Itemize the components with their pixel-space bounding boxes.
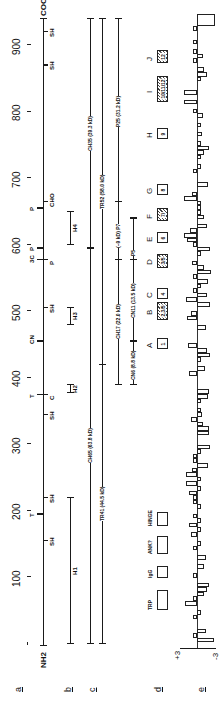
tick-label: 700 xyxy=(12,171,22,188)
hydropathy-bar xyxy=(193,169,197,174)
tick-label: 300 xyxy=(12,437,22,454)
fragment-label: P25 (31.2 kD) xyxy=(115,96,122,127)
site-tick xyxy=(43,307,48,308)
hydropathy-bar xyxy=(197,638,214,643)
domain-label: ANK? xyxy=(148,540,153,554)
repeat-letter: B xyxy=(146,310,154,315)
scale-top-label: +3 xyxy=(174,651,182,660)
fragment-cap xyxy=(130,384,137,385)
fragment-cap xyxy=(87,643,94,644)
tick-mark xyxy=(27,510,31,511)
site-label: SH xyxy=(49,494,55,503)
tick-label: 100 xyxy=(12,570,22,587)
site-tick xyxy=(43,31,48,32)
hydropathy-bar xyxy=(197,14,215,26)
hydropathy-bar xyxy=(197,629,206,634)
repeat-box: 2,3/5 xyxy=(157,302,168,320)
site-label: SH xyxy=(49,537,55,546)
hydropathy-bar xyxy=(193,573,197,578)
region-line xyxy=(70,497,71,643)
repeat-number: 6 xyxy=(160,235,166,240)
repeat-box: 9 xyxy=(157,128,168,139)
hydropathy-bar xyxy=(197,504,201,509)
repeat-box: 7/ xyxy=(157,208,168,221)
tick-mark xyxy=(27,443,31,444)
site-label: P xyxy=(29,207,35,211)
domain-box xyxy=(157,590,168,610)
hydropathy-bar xyxy=(197,610,201,615)
hydropathy-bar xyxy=(197,54,203,59)
tick-mark xyxy=(27,44,31,45)
tick-mark xyxy=(27,177,31,178)
sequence-axis-line xyxy=(43,18,44,645)
site-label: P xyxy=(29,247,35,251)
site-tick xyxy=(43,394,48,395)
repeat-number: 10/11/12 xyxy=(160,78,166,99)
fragment-label: CH17 (22.0 kD) xyxy=(115,304,122,339)
fragment-label: TR41 (44.5 kD) xyxy=(99,487,106,521)
scale-bottom-label: -3 xyxy=(212,653,220,660)
hydropathy-bar xyxy=(197,518,201,523)
site-tick xyxy=(37,513,43,514)
hydropathy-bar xyxy=(197,592,204,597)
repeat-box: 8 xyxy=(157,184,168,195)
hydropathy-bar xyxy=(197,164,201,169)
protein-domain-map-figure: a b c d e 100200300400500600700800900 NH… xyxy=(0,0,223,704)
hydropathy-bar xyxy=(197,463,208,468)
hydropathy-bar xyxy=(184,196,197,201)
repeat-number: 8 xyxy=(160,187,166,192)
tick-label: 500 xyxy=(12,304,22,321)
repeat-box: 1 xyxy=(157,338,168,349)
row-label-b: b xyxy=(64,687,73,692)
repeat-number: 3/5 xyxy=(160,257,166,266)
row-label-d: d xyxy=(154,687,163,692)
tick-mark xyxy=(27,111,31,112)
hydropathy-bar xyxy=(197,366,205,371)
fragment-cap xyxy=(115,259,122,260)
hydropathy-bar xyxy=(189,523,197,528)
row-label-e: e xyxy=(197,687,206,692)
site-label: C xyxy=(49,395,55,400)
fragment-cap xyxy=(130,340,137,341)
region-cap xyxy=(67,643,74,644)
hydropathy-bar xyxy=(197,486,201,491)
repeat-letter: J xyxy=(146,57,154,61)
site-label: SH xyxy=(49,411,55,420)
fragment-cap xyxy=(99,364,106,365)
repeat-letter: H xyxy=(146,132,154,138)
repeat-number: 4 xyxy=(160,291,166,296)
hydropathy-bar xyxy=(197,270,211,275)
hydropathy-bar xyxy=(188,343,197,348)
row-label-a: a xyxy=(14,687,23,692)
region-label: H2 xyxy=(72,385,78,393)
repeat-letter: I xyxy=(146,91,154,93)
hydropathy-bar xyxy=(197,132,202,137)
region-line xyxy=(70,384,71,392)
fragment-cap xyxy=(115,18,122,19)
repeat-box: 10/11/12 xyxy=(157,76,168,102)
hydropathy-bar xyxy=(193,26,197,31)
site-tick xyxy=(37,340,43,341)
site-label: T xyxy=(29,394,35,398)
region-cap xyxy=(67,324,74,325)
hydropathy-bar xyxy=(193,40,197,45)
tick-mark xyxy=(27,310,31,311)
hydropathy-bar xyxy=(185,601,197,606)
repeat-number: 1 xyxy=(160,341,166,346)
fragment-cap xyxy=(115,384,122,385)
tick-label: 800 xyxy=(12,104,22,121)
hydropathy-bar xyxy=(186,481,197,486)
site-label: 3C xyxy=(29,255,35,263)
hydropathy-bar xyxy=(197,541,201,546)
hydropathy-bar xyxy=(197,357,201,362)
hydropathy-bar xyxy=(197,293,207,298)
hydropathy-bar xyxy=(197,284,201,289)
site-label: CHO xyxy=(49,193,55,207)
repeat-box: 12 xyxy=(157,50,168,63)
fragment-cap xyxy=(87,247,94,248)
domain-box xyxy=(157,566,168,578)
site-label: CN xyxy=(29,335,35,344)
hydropathy-bar xyxy=(197,555,206,560)
repeat-letter: E xyxy=(146,236,154,241)
c-terminus-label: COOH xyxy=(40,0,48,16)
